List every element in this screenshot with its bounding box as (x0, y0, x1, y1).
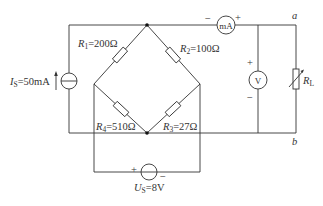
node-b-label: b (292, 136, 297, 147)
svg-text:−: − (247, 92, 253, 103)
svg-text:IS=50mA: IS=50mA (9, 76, 50, 89)
resistor-r1: R1=200Ω (77, 38, 128, 63)
resistor-r2: R2=100Ω (165, 43, 219, 63)
svg-text:R2=100Ω: R2=100Ω (179, 43, 220, 56)
svg-text:+: + (131, 164, 137, 175)
node-bottom (145, 131, 149, 135)
svg-text:R3=27Ω: R3=27Ω (162, 121, 198, 134)
svg-text:+: + (247, 57, 253, 68)
node-a-label: a (292, 10, 297, 21)
svg-text:+: + (235, 12, 241, 23)
node-top (145, 23, 149, 27)
ammeter: mA − + (205, 12, 241, 34)
svg-text:−: − (205, 13, 211, 24)
resistor-r3: R3=27Ω (162, 101, 198, 134)
current-source-is: IS=50mA (9, 71, 77, 90)
svg-text:R1=200Ω: R1=200Ω (77, 38, 118, 51)
voltage-source-us: + − US=8V (131, 164, 166, 195)
resistor-r4: R4=510Ω (95, 101, 136, 134)
voltmeter: V + − (247, 57, 267, 103)
svg-text:RL: RL (302, 75, 314, 88)
svg-text:−: − (160, 171, 166, 182)
svg-text:mA: mA (219, 21, 233, 31)
load-resistor-rl: RL (289, 69, 314, 89)
svg-text:R4=510Ω: R4=510Ω (95, 121, 136, 134)
svg-text:US=8V: US=8V (134, 182, 165, 195)
svg-text:V: V (255, 76, 262, 86)
